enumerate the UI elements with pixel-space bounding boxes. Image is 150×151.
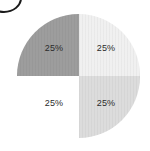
pie-slice-label-top-right: 25% [89, 43, 123, 53]
pie-slice-label-bottom-right: 25% [89, 98, 123, 108]
pie-slice-label-top-left: 25% [37, 43, 71, 53]
pie-slice-label-bottom-left: 25% [37, 98, 71, 108]
partial-circle-outline-icon [0, 0, 22, 13]
pie-chart [17, 14, 140, 138]
pie-chart-screenshot: 25% 25% 25% 25% [0, 0, 150, 151]
